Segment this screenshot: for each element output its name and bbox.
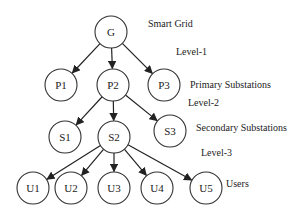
node-u4: U4 [141,172,173,204]
node-label: P3 [158,79,170,91]
nodes: GP1P2P3S1S2S3U1U2U3U4U5 [17,16,222,204]
node-u3: U3 [98,172,130,204]
edge-p2-s3 [125,95,157,121]
node-u5: U5 [190,172,222,204]
edge-s2-u2 [82,149,104,175]
node-label: S1 [59,131,71,143]
node-label: S2 [108,131,120,143]
edge-g-p3 [122,43,152,73]
label-level-2: Level-2 [188,97,219,108]
edge-g-p1 [72,44,100,73]
label-level-1: Level-1 [176,46,207,57]
node-g: G [95,16,127,48]
node-label: U5 [199,182,213,194]
node-s3: S3 [154,115,186,147]
label-primary-substations: Primary Substations [190,79,271,90]
node-s2: S2 [98,121,130,153]
node-label: G [107,26,115,38]
label-secondary-substations: Secondary Substations [196,122,287,133]
label-users: Users [226,178,249,189]
node-label: P1 [55,79,67,91]
node-label: U1 [26,182,39,194]
smart-grid-tree-diagram: GP1P2P3S1S2S3U1U2U3U4U5 Smart Grid Level… [0,0,308,216]
node-p1: P1 [45,69,77,101]
edge-p2-s1 [76,97,102,125]
node-label: U2 [64,182,77,194]
node-u1: U1 [17,172,49,204]
node-p3: P3 [148,69,180,101]
node-label: P2 [107,79,119,91]
edge-g-p2 [112,48,113,69]
edges [47,43,192,180]
node-label: U4 [150,182,164,194]
node-label: U3 [107,182,121,194]
node-label: S3 [164,125,176,137]
label-smart-grid: Smart Grid [148,18,193,29]
node-s1: S1 [49,121,81,153]
label-level-3: Level-3 [201,147,232,158]
node-u2: U2 [55,172,87,204]
node-p2: P2 [97,69,129,101]
